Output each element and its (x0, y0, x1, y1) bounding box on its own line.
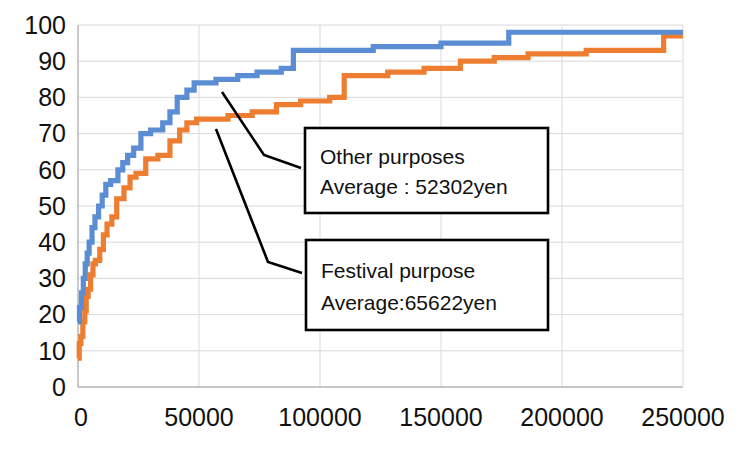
annotation-box (306, 240, 548, 330)
y-tick-label: 80 (38, 83, 66, 111)
x-tick-label: 0 (74, 403, 88, 431)
x-tick-label: 200000 (520, 403, 603, 431)
x-axis-tick-labels: 0 50000 100000 150000 200000 250000 (74, 403, 725, 431)
y-tick-label: 30 (38, 264, 66, 292)
x-tick-label: 250000 (641, 403, 724, 431)
y-tick-label: 60 (38, 156, 66, 184)
cumulative-distribution-chart: 100 90 80 70 60 50 40 30 20 10 0 0 50000… (0, 0, 740, 459)
chart-container: 100 90 80 70 60 50 40 30 20 10 0 0 50000… (0, 0, 740, 459)
annotation-festival-purpose: Festival purpose Average:65622yen (306, 240, 548, 330)
y-tick-label: 50 (38, 192, 66, 220)
x-tick-label: 50000 (164, 403, 234, 431)
x-tick-label: 100000 (278, 403, 361, 431)
y-tick-label: 90 (38, 47, 66, 75)
y-axis-tick-labels: 100 90 80 70 60 50 40 30 20 10 0 (24, 11, 66, 401)
y-tick-label: 0 (52, 373, 66, 401)
annotation-average: Average : 52302yen (320, 175, 508, 198)
y-tick-label: 20 (38, 300, 66, 328)
y-tick-label: 100 (24, 11, 66, 39)
y-tick-label: 10 (38, 337, 66, 365)
y-tick-label: 70 (38, 119, 66, 147)
annotation-title: Other purposes (320, 145, 465, 168)
annotation-other-purposes: Other purposes Average : 52302yen (305, 128, 548, 213)
annotation-box (305, 128, 548, 213)
x-tick-label: 150000 (399, 403, 482, 431)
annotation-title: Festival purpose (321, 259, 475, 282)
annotation-average: Average:65622yen (321, 291, 497, 314)
y-tick-label: 40 (38, 228, 66, 256)
